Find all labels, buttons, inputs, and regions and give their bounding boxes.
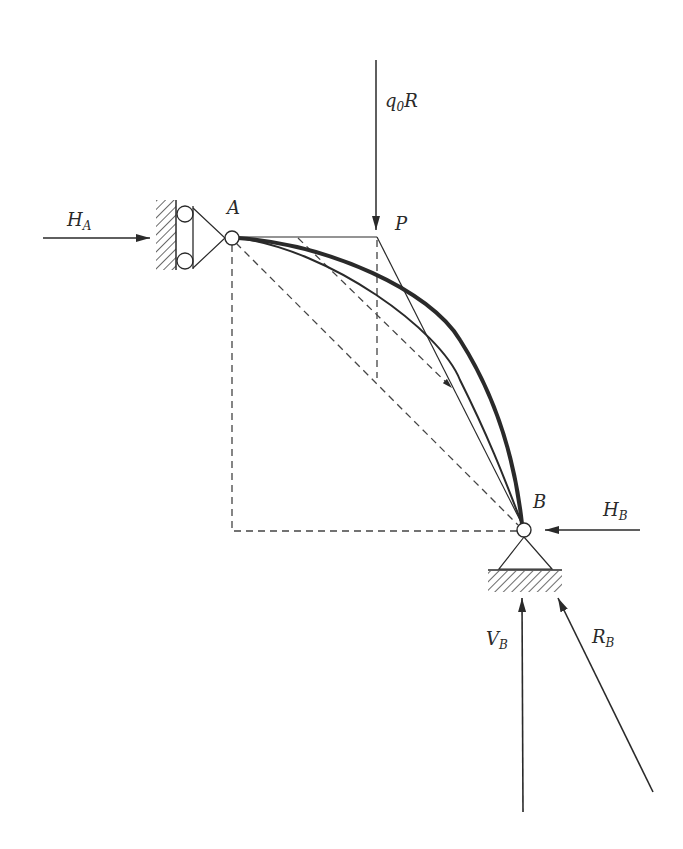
construction-lines xyxy=(232,240,518,531)
dashed-arrow-line xyxy=(298,238,452,388)
label-A: A xyxy=(225,197,240,218)
arrow-VB xyxy=(522,598,523,812)
label-RB: RB xyxy=(591,626,615,650)
arch-curve-thin xyxy=(238,238,522,524)
ground-hatch xyxy=(488,571,562,592)
label-P: P xyxy=(394,213,408,234)
support-triangle-A xyxy=(193,208,225,268)
label-VB: VB xyxy=(486,628,508,652)
roller-top xyxy=(177,206,193,222)
label-HA: HA xyxy=(66,209,92,233)
label-load: q0R xyxy=(385,90,418,114)
support-triangle-B xyxy=(499,537,552,569)
roller-bottom xyxy=(177,253,193,269)
pin-B xyxy=(517,523,531,537)
arch-curve-thick xyxy=(238,238,522,524)
pin-A xyxy=(225,231,239,245)
label-HB: HB xyxy=(602,499,628,523)
chord-A-B-dashed xyxy=(236,243,518,525)
wall-hatch xyxy=(156,200,176,270)
pinned-support-B xyxy=(488,537,562,592)
line-P-B xyxy=(377,237,522,524)
roller-support-A xyxy=(156,200,225,270)
arch-diagram: q0R A P B HA HB VB RB xyxy=(0,0,683,849)
label-B: B xyxy=(532,491,546,512)
dashed-rectangle xyxy=(232,245,517,531)
